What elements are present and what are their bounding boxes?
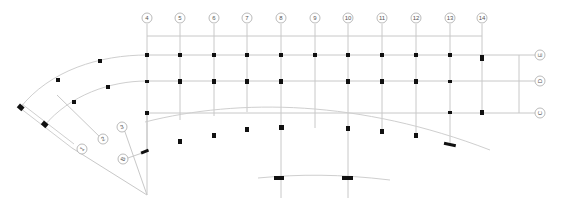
right-axis-bubbles: E D C: [535, 50, 545, 118]
axis-bubble-8: 8: [276, 13, 286, 23]
axis-bubble-E: E: [535, 50, 545, 60]
axis-bubble-4: 4: [142, 13, 152, 23]
horizontal-gridlines: [147, 55, 536, 113]
curved-gridlines: [20, 55, 490, 195]
axis-bubble-10: 10: [343, 13, 353, 23]
axis-bubble-D: D: [535, 76, 545, 86]
svg-text:E: E: [537, 53, 543, 57]
axis-bubble-14: 14: [477, 13, 487, 23]
axis-bubble-C: C: [535, 108, 545, 118]
svg-text:11: 11: [379, 15, 386, 21]
svg-text:13: 13: [447, 15, 454, 21]
axis-bubble-2: 2: [98, 134, 108, 144]
axis-bubble-12: 12: [411, 13, 421, 23]
svg-text:D: D: [537, 78, 543, 83]
axis-bubble-3: 3: [117, 122, 127, 132]
axis-bubble-13: 13: [445, 13, 455, 23]
grid-plan-svg: 4 5 6 7 8 9 10 11 12 13 14 E D C 1 2 3 B: [0, 0, 562, 208]
drawing-canvas: 4 5 6 7 8 9 10 11 12 13 14 E D C 1 2 3 B: [0, 0, 562, 208]
axis-bubble-B: B: [118, 154, 128, 164]
axis-bubble-1: 1: [77, 144, 87, 154]
axis-bubble-9: 9: [310, 13, 320, 23]
axis-bubble-5: 5: [175, 13, 185, 23]
axis-bubble-6: 6: [209, 13, 219, 23]
top-axis-bubbles: 4 5 6 7 8 9 10 11 12 13 14: [142, 13, 487, 23]
svg-text:C: C: [537, 110, 543, 115]
columns: [17, 53, 484, 180]
axis-bubble-7: 7: [242, 13, 252, 23]
svg-text:10: 10: [345, 15, 352, 21]
svg-text:12: 12: [413, 15, 420, 21]
vertical-gridlines: [147, 24, 482, 198]
radial-axis-bubbles: 1 2 3 B: [77, 122, 128, 164]
svg-text:14: 14: [479, 15, 486, 21]
axis-bubble-11: 11: [377, 13, 387, 23]
